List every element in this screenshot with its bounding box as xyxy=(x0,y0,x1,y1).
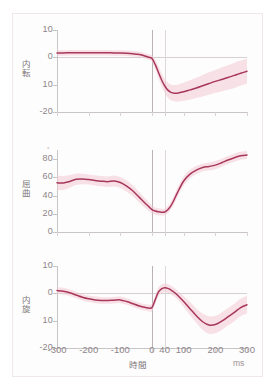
x-tick xyxy=(165,112,166,116)
x-tick xyxy=(215,112,216,116)
x-tick xyxy=(247,232,248,236)
x-tick-label: 40 xyxy=(159,344,170,355)
y-axis-title: 屈曲 xyxy=(18,180,34,198)
x-tick xyxy=(152,232,153,236)
x-tick xyxy=(184,112,185,116)
y-axis-unit-degree: ° xyxy=(47,146,49,152)
figure-root: 10010-20°内転 806040200°屈曲 10010-20°内旋 -30… xyxy=(0,0,275,390)
y-axis-title: 内旋 xyxy=(18,296,34,314)
y-axis-title: 内転 xyxy=(18,60,34,78)
x-tick-label: 100 xyxy=(176,344,192,355)
x-tick-label: 200 xyxy=(207,344,223,355)
confidence-band xyxy=(57,151,247,215)
x-tick xyxy=(120,112,121,116)
x-tick xyxy=(89,112,90,116)
x-tick xyxy=(120,232,121,236)
x-tick-label: -300 xyxy=(47,344,66,355)
series-plot xyxy=(57,150,247,232)
chart-panel-flexion: 806040200°屈曲 xyxy=(0,142,275,254)
confidence-band xyxy=(57,283,247,334)
y-tick-label: 10 xyxy=(19,79,53,89)
x-tick xyxy=(57,232,58,236)
series-plot xyxy=(57,266,247,348)
y-tick-label: -20 xyxy=(19,106,53,116)
y-axis-unit-degree: ° xyxy=(47,262,49,268)
x-tick xyxy=(247,112,248,116)
x-tick-label: 300 xyxy=(239,344,255,355)
x-tick-label: -200 xyxy=(79,344,98,355)
x-axis-unit: ms xyxy=(233,358,244,368)
chart-panel-adduction: 10010-20°内転 xyxy=(0,22,275,134)
x-tick xyxy=(165,232,166,236)
series-plot xyxy=(57,30,247,112)
y-axis-unit-degree: ° xyxy=(47,26,49,32)
x-tick xyxy=(89,232,90,236)
x-axis-tick-labels: -300-200-100040100200300 xyxy=(0,344,275,358)
x-tick-label: -100 xyxy=(111,344,130,355)
x-tick xyxy=(57,112,58,116)
y-tick-label: 0 xyxy=(19,226,53,236)
x-tick xyxy=(215,232,216,236)
x-tick xyxy=(184,232,185,236)
y-tick xyxy=(53,232,57,233)
x-tick-label: 0 xyxy=(149,344,154,355)
y-tick-label: 20 xyxy=(19,208,53,218)
y-tick xyxy=(53,112,57,113)
x-tick xyxy=(152,112,153,116)
y-tick-label: 80 xyxy=(19,153,53,163)
y-tick-label: 10 xyxy=(19,315,53,325)
